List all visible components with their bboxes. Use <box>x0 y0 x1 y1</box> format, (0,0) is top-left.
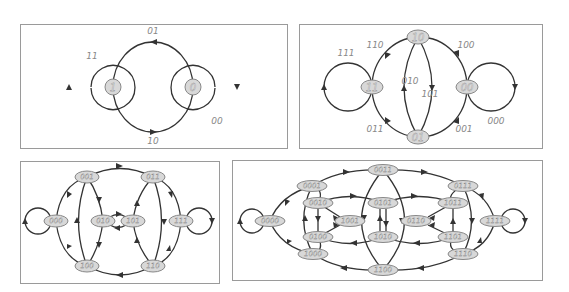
node-label: 0111 <box>454 182 472 190</box>
node-label: 1110 <box>454 250 472 258</box>
node-label: 01 <box>412 132 425 143</box>
node-label: 1 <box>110 82 116 93</box>
node-label: 110 <box>146 262 160 270</box>
panel-order-2: 10 11 00 01 111 110 100 010 101 011 001 … <box>300 25 543 149</box>
edge-label: 111 <box>337 48 354 58</box>
edge-label: 110 <box>366 40 383 50</box>
node-label: 0010 <box>309 199 327 207</box>
edge-label: 011 <box>366 124 383 134</box>
node-label: 100 <box>80 262 94 270</box>
panel-order-1: 1 0 11 01 00 10 <box>21 25 288 149</box>
node-label: 1001 <box>341 217 359 225</box>
node-label: 111 <box>174 217 187 225</box>
node-label: 001 <box>80 173 93 181</box>
node-label: 0100 <box>309 233 327 241</box>
edge-label: 01 <box>147 26 158 36</box>
de-bruijn-graphs-figure: 1 0 11 01 00 10 10 11 00 <box>0 0 569 292</box>
node-label: 0 <box>190 82 196 93</box>
node-label: 1111 <box>486 217 504 225</box>
node-label: 0001 <box>303 182 321 190</box>
node-label: 1010 <box>374 233 392 241</box>
edge-label: 10 <box>147 136 159 146</box>
edge-label: 100 <box>457 40 474 50</box>
edge-label: 000 <box>487 116 504 126</box>
edge-label: 11 <box>86 51 97 61</box>
node-label: 10 <box>412 32 425 43</box>
node-label: 000 <box>49 217 63 225</box>
node-label: 0110 <box>407 217 425 225</box>
node-label: 1100 <box>374 266 392 274</box>
node-label: 010 <box>96 217 110 225</box>
edge-label: 00 <box>211 116 223 126</box>
node-label: 1011 <box>444 199 462 207</box>
node-label: 00 <box>461 82 474 93</box>
edge-label: 010 <box>401 76 418 86</box>
panel-order-4: 0011 0001 0111 0010 0101 1011 0000 1001 … <box>233 161 543 281</box>
node-label: 0011 <box>374 166 392 174</box>
node-label: 0000 <box>261 217 279 225</box>
panel-order-3: 001 011 000 010 101 111 100 110 <box>21 162 220 284</box>
node-label: 1000 <box>304 250 322 258</box>
node-label: 1101 <box>444 233 462 241</box>
node-label: 011 <box>146 173 159 181</box>
node-label: 101 <box>126 217 139 225</box>
node-label: 0101 <box>374 199 392 207</box>
node-label: 11 <box>366 82 379 93</box>
edge-label: 101 <box>421 89 438 99</box>
edge-label: 001 <box>455 124 472 134</box>
